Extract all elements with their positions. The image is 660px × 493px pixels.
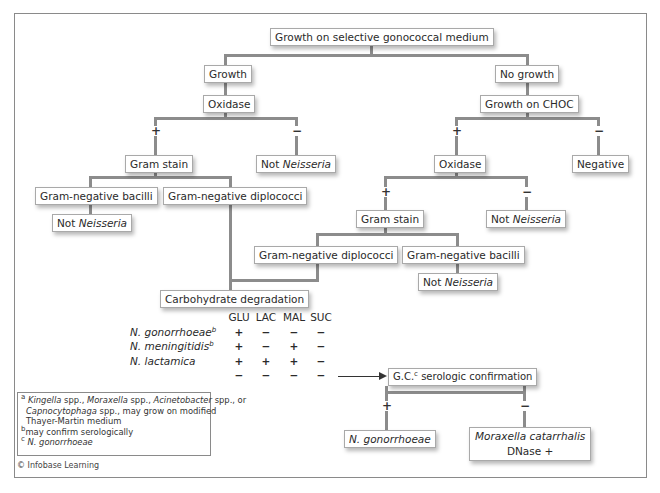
row-label: N. meningitidisb bbox=[130, 340, 214, 352]
footnote-a: a Kingella spp., Moraxella spp., Acineto… bbox=[21, 395, 207, 406]
genus-label: Neisseria bbox=[283, 158, 331, 170]
connector bbox=[229, 279, 319, 282]
column-header: LAC bbox=[252, 311, 280, 323]
table-cell: − bbox=[307, 326, 335, 338]
footnote-mark: b bbox=[212, 326, 216, 334]
node-growth-on-choc: Growth on CHOC bbox=[480, 95, 579, 113]
node-gram-stain-left: Gram stain bbox=[125, 155, 193, 173]
connector bbox=[385, 391, 526, 394]
genus-label: Capnocytophaga bbox=[26, 406, 97, 416]
genus-label: Acinetobacter bbox=[154, 395, 212, 405]
table-cell: − bbox=[307, 369, 335, 381]
table-cell: − bbox=[307, 340, 335, 352]
table-cell: − bbox=[225, 369, 253, 381]
table-cell: + bbox=[280, 340, 308, 352]
table-cell: − bbox=[307, 355, 335, 367]
species-name: N. gonorrhoeae bbox=[28, 437, 93, 447]
footnotes-box: a Kingella spp., Moraxella spp., Acineto… bbox=[17, 392, 211, 456]
footnote-a-line2: Capnocytophaga spp., may grow on modifie… bbox=[21, 406, 207, 417]
node-not-neisseria: Not Neisseria bbox=[418, 273, 498, 291]
node-not-neisseria: Not Neisseria bbox=[52, 214, 132, 232]
node-n-gonorrhoeae: N. gonorrhoeae bbox=[344, 430, 436, 448]
species-name: Moraxella catarrhalis bbox=[475, 429, 585, 444]
node-gram-negative-bacilli-left: Gram-negative bacilli bbox=[35, 187, 158, 205]
connector bbox=[456, 263, 459, 273]
table-cell: + bbox=[225, 355, 253, 367]
plus-sign: + bbox=[380, 187, 392, 197]
minus-sign: − bbox=[593, 126, 605, 136]
text: spp., bbox=[61, 395, 87, 405]
not-label: Not bbox=[491, 213, 513, 225]
gc-label-suffix: serologic confirmation bbox=[418, 371, 532, 382]
node-gram-negative-diplococci-left: Gram-negative diplococci bbox=[163, 187, 307, 205]
footnote-mark: b bbox=[209, 340, 213, 348]
arrow-right-icon bbox=[379, 372, 387, 380]
node-oxidase-left: Oxidase bbox=[203, 95, 255, 113]
node-not-neisseria: Not Neisseria bbox=[256, 155, 336, 173]
plus-sign: + bbox=[150, 126, 162, 136]
arrow-line bbox=[338, 376, 382, 377]
footnote-b: bmay confirm serologically bbox=[21, 427, 207, 438]
text: spp., may grow on modified bbox=[97, 406, 217, 416]
node-oxidase-right: Oxidase bbox=[434, 155, 486, 173]
copyright: © Infobase Learning bbox=[17, 461, 99, 470]
column-header: GLU bbox=[225, 311, 253, 323]
table-cell: + bbox=[252, 355, 280, 367]
dnase-label: DNase + bbox=[475, 444, 585, 459]
not-label: Not bbox=[261, 158, 283, 170]
table-cell: − bbox=[252, 340, 280, 352]
text: spp., bbox=[128, 395, 154, 405]
genus-label: Neisseria bbox=[445, 276, 493, 288]
table-cell: + bbox=[225, 326, 253, 338]
not-label: Not bbox=[57, 217, 79, 229]
connector bbox=[316, 233, 459, 236]
node-gram-negative-bacilli-right: Gram-negative bacilli bbox=[402, 246, 525, 264]
node-growth-on-selective-medium: Growth on selective gonococcal medium bbox=[270, 28, 494, 46]
species-name: N. gonorrhoeae bbox=[130, 326, 212, 338]
table-cell: − bbox=[252, 369, 280, 381]
genus-label: Kingella bbox=[28, 395, 61, 405]
connector bbox=[229, 205, 232, 290]
node-gc-serologic-confirmation: G.C.c serologic confirmation bbox=[388, 368, 537, 386]
row-label: N. lactamica bbox=[130, 355, 196, 367]
column-header: SUC bbox=[307, 311, 335, 323]
connector bbox=[455, 117, 600, 120]
node-negative: Negative bbox=[572, 155, 629, 173]
column-header: MAL bbox=[280, 311, 308, 323]
footnote-mark: c bbox=[21, 435, 25, 443]
minus-sign: − bbox=[291, 126, 303, 136]
node-gram-negative-diplococci-right: Gram-negative diplococci bbox=[254, 246, 398, 264]
species-name: N. gonorrhoeae bbox=[349, 433, 431, 445]
not-label: Not bbox=[423, 276, 445, 288]
footnote-a-line3: Thayer-Martin medium bbox=[21, 416, 207, 427]
table-cell: − bbox=[280, 369, 308, 381]
species-name: N. meningitidis bbox=[130, 340, 209, 352]
species-name: N. lactamica bbox=[130, 355, 196, 367]
gc-label: G.C. bbox=[393, 371, 414, 382]
table-cell: − bbox=[252, 326, 280, 338]
node-growth: Growth bbox=[204, 65, 252, 83]
genus-label: Moraxella bbox=[87, 395, 128, 405]
genus-label: Neisseria bbox=[513, 213, 561, 225]
connector bbox=[456, 233, 459, 246]
node-no-growth: No growth bbox=[495, 65, 559, 83]
text: spp., or bbox=[212, 395, 246, 405]
node-moraxella-catarrhalis: Moraxella catarrhalisDNase + bbox=[469, 427, 591, 461]
plus-sign: + bbox=[381, 401, 393, 411]
genus-label: Neisseria bbox=[79, 217, 127, 229]
table-cell: − bbox=[280, 326, 308, 338]
node-not-neisseria: Not Neisseria bbox=[486, 210, 566, 228]
table-cell: + bbox=[225, 340, 253, 352]
minus-sign: − bbox=[519, 401, 531, 411]
footnote-c: c N. gonorrhoeae bbox=[21, 437, 207, 448]
node-carbohydrate-degradation: Carbohydrate degradation bbox=[160, 290, 309, 308]
connector bbox=[316, 233, 319, 246]
connector bbox=[384, 176, 528, 179]
connector bbox=[224, 54, 529, 57]
table-cell: + bbox=[280, 355, 308, 367]
text: may confirm serologically bbox=[25, 427, 133, 437]
minus-sign: − bbox=[521, 187, 533, 197]
connector bbox=[89, 176, 232, 179]
plus-sign: + bbox=[451, 126, 463, 136]
node-gram-stain-right: Gram stain bbox=[356, 210, 424, 228]
